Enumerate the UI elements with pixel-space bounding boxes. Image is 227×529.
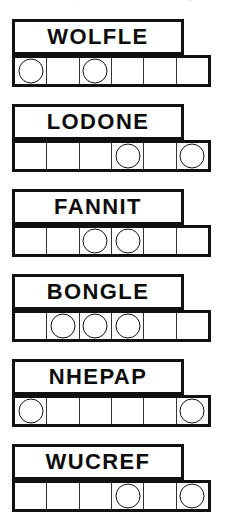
answer-cell[interactable]	[144, 398, 176, 424]
circle-marker-icon	[18, 399, 43, 424]
circle-marker-icon	[18, 59, 43, 84]
word-box: WUCREF	[12, 444, 184, 480]
answer-cell[interactable]	[15, 483, 47, 509]
answer-cell[interactable]	[112, 58, 144, 84]
answer-cell[interactable]	[80, 228, 112, 254]
answer-cell[interactable]	[15, 313, 47, 339]
circle-marker-icon	[115, 144, 140, 169]
word-text: NHEPAP	[49, 366, 147, 388]
answer-cell[interactable]	[15, 398, 47, 424]
circle-marker-icon	[180, 399, 205, 424]
answer-cell[interactable]	[112, 228, 144, 254]
circle-marker-icon	[180, 484, 205, 509]
word-box: WOLFLE	[12, 19, 184, 55]
answer-cell[interactable]	[144, 58, 176, 84]
circle-marker-icon	[83, 229, 108, 254]
word-box: NHEPAP	[12, 359, 184, 395]
answer-cell[interactable]	[47, 483, 79, 509]
answer-grid	[12, 310, 211, 342]
answer-grid	[12, 225, 211, 257]
answer-cell[interactable]	[80, 313, 112, 339]
puzzle-group: NHEPAP	[0, 354, 227, 439]
word-text: WUCREF	[46, 451, 151, 473]
answer-cell[interactable]	[177, 228, 208, 254]
answer-cell[interactable]	[47, 313, 79, 339]
answer-cell[interactable]	[15, 228, 47, 254]
answer-grid	[12, 480, 211, 512]
answer-cell[interactable]	[47, 398, 79, 424]
answer-cell[interactable]	[47, 143, 79, 169]
answer-cell[interactable]	[47, 228, 79, 254]
circle-marker-icon	[50, 314, 75, 339]
answer-cell[interactable]	[177, 313, 208, 339]
word-text: WOLFLE	[47, 26, 148, 48]
word-box: FANNIT	[12, 189, 184, 225]
circle-marker-icon	[115, 484, 140, 509]
answer-cell[interactable]	[177, 143, 208, 169]
header-ghost-text: a word puzzle worksheet fragment	[34, 0, 221, 1]
circle-marker-icon	[115, 229, 140, 254]
answer-cell[interactable]	[112, 313, 144, 339]
answer-grid	[12, 140, 211, 172]
puzzle-group: WOLFLE	[0, 14, 227, 99]
answer-cell[interactable]	[15, 143, 47, 169]
puzzle-group: BONGLE	[0, 269, 227, 354]
word-box: LODONE	[12, 104, 184, 140]
circle-marker-icon	[115, 314, 140, 339]
answer-cell[interactable]	[144, 228, 176, 254]
circle-marker-icon	[180, 144, 205, 169]
answer-cell[interactable]	[80, 398, 112, 424]
answer-cell[interactable]	[15, 58, 47, 84]
answer-cell[interactable]	[80, 483, 112, 509]
word-text: FANNIT	[54, 196, 142, 218]
answer-cell[interactable]	[144, 143, 176, 169]
word-text: BONGLE	[47, 281, 150, 303]
puzzle-group: WUCREF	[0, 439, 227, 524]
answer-cell[interactable]	[80, 143, 112, 169]
word-box: BONGLE	[12, 274, 184, 310]
answer-cell[interactable]	[112, 483, 144, 509]
circle-marker-icon	[83, 59, 108, 84]
answer-grid	[12, 395, 211, 427]
puzzle-group: FANNIT	[0, 184, 227, 269]
answer-cell[interactable]	[144, 313, 176, 339]
answer-cell[interactable]	[177, 58, 208, 84]
word-text: LODONE	[47, 111, 150, 133]
circle-marker-icon	[83, 314, 108, 339]
answer-grid	[12, 55, 211, 87]
puzzle-group: LODONE	[0, 99, 227, 184]
answer-cell[interactable]	[144, 483, 176, 509]
header-strip: a word puzzle worksheet fragment	[0, 0, 227, 14]
answer-cell[interactable]	[112, 398, 144, 424]
answer-cell[interactable]	[177, 398, 208, 424]
answer-cell[interactable]	[47, 58, 79, 84]
answer-cell[interactable]	[80, 58, 112, 84]
puzzle-list: WOLFLELODONEFANNITBONGLENHEPAPWUCREF	[0, 14, 227, 524]
answer-cell[interactable]	[177, 483, 208, 509]
answer-cell[interactable]	[112, 143, 144, 169]
